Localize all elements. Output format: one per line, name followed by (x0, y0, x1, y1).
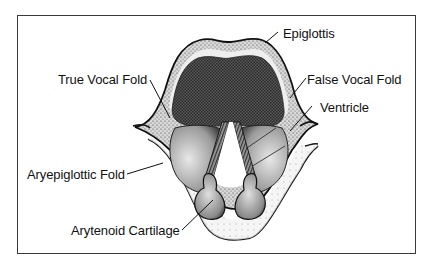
label-arytenoid-cartilage: Arytenoid Cartilage (71, 224, 180, 237)
label-true-vocal-fold: True Vocal Fold (58, 73, 147, 86)
larynx-illustration (0, 0, 435, 264)
label-false-vocal-fold: False Vocal Fold (307, 73, 402, 86)
label-ventricle: Ventricle (320, 101, 369, 114)
epiglottis-dark (172, 56, 284, 127)
label-aryepiglottic-fold: Aryepiglottic Fold (27, 168, 125, 181)
label-epiglottis: Epiglottis (283, 27, 335, 40)
